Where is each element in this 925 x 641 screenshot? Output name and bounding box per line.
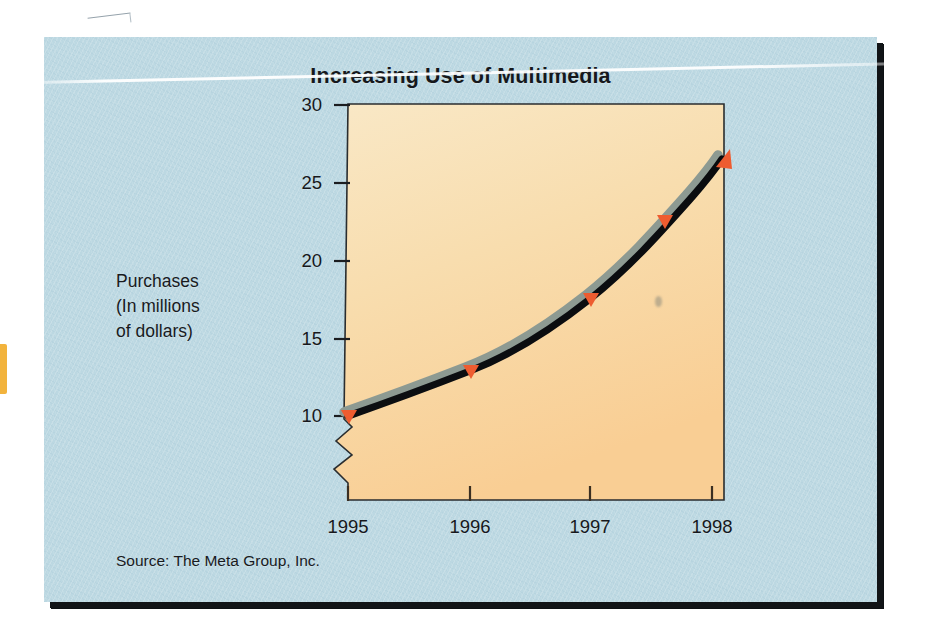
y-tick-label: 30: [274, 94, 322, 116]
plot-area: 30 25 20 15 10 1995 1996 1997 1998: [44, 37, 877, 602]
scan-artifact-nick: [88, 12, 132, 27]
source-note: Source: The Meta Group, Inc.: [116, 552, 320, 570]
chart-card: Increasing Use of Multimedia Purchases (…: [44, 37, 877, 602]
plot-panel: [334, 104, 724, 500]
x-tick-label: 1995: [313, 516, 383, 538]
x-tick-label: 1996: [435, 516, 505, 538]
y-tick-label: 20: [274, 250, 322, 272]
screenshot-page: Increasing Use of Multimedia Purchases (…: [0, 0, 925, 641]
x-tick-label: 1998: [677, 516, 747, 538]
x-tick-label: 1997: [555, 516, 625, 538]
y-tick-label: 25: [274, 172, 322, 194]
y-tick-label: 10: [274, 405, 322, 427]
page-edge-tab: [0, 344, 7, 394]
y-tick-label: 15: [274, 328, 322, 350]
